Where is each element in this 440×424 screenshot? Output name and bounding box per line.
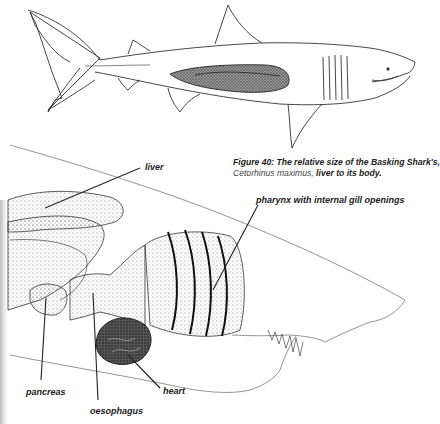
label-liver: liver: [145, 162, 164, 172]
teeth: [268, 330, 303, 356]
heart-organ: [96, 318, 151, 364]
pancreas-organ: [30, 284, 67, 315]
figure-caption: Figure 40: The relative size of the Bask…: [233, 157, 440, 179]
liver-small: [170, 65, 289, 93]
label-pancreas: pancreas: [26, 387, 66, 397]
caption-line-2-bold: liver to its body.: [316, 168, 382, 178]
caption-species: Cetorhinus maximus: [233, 168, 311, 178]
leader-heart: [128, 355, 160, 388]
label-heart: heart: [163, 386, 185, 396]
label-oesophagus: oesophagus: [90, 406, 143, 416]
label-pharynx: pharynx with internal gill openings: [256, 195, 405, 205]
caption-line-1: Figure 40: The relative size of the Bask…: [233, 157, 440, 167]
